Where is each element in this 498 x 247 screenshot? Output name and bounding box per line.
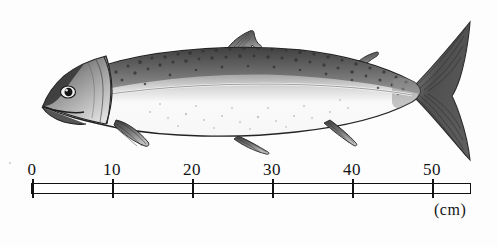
salmon-drawing: Side view illustration of a salmon facin… (0, 0, 498, 165)
ruler-tick-20 (192, 179, 194, 198)
ruler-label-0: 0 (28, 160, 37, 179)
ruler-tick-0 (32, 179, 34, 198)
ruler-tick-40 (352, 179, 354, 198)
fish-eye (61, 86, 76, 98)
centimetre-ruler: 0 10 20 30 40 50 (cm) (0, 160, 498, 247)
ruler-label-20: 20 (183, 160, 201, 179)
ruler-tick-30 (272, 179, 274, 198)
paper-speck (9, 162, 11, 164)
ruler-tick-50 (432, 179, 434, 198)
ruler-tick-10 (112, 179, 114, 198)
fish-illustration: Side view illustration of a salmon facin… (0, 0, 498, 165)
ruler-label-10: 10 (103, 160, 121, 179)
ruler-bar (31, 183, 471, 194)
fish-head (42, 56, 112, 124)
figure-page: Side view illustration of a salmon facin… (0, 0, 498, 247)
ruler-label-30: 30 (263, 160, 281, 179)
pelvic-fin (234, 136, 269, 154)
caudal-fin (412, 22, 470, 160)
ruler-label-40: 40 (343, 160, 361, 179)
ruler-unit-label: (cm) (434, 201, 466, 219)
ruler-label-50: 50 (423, 160, 441, 179)
